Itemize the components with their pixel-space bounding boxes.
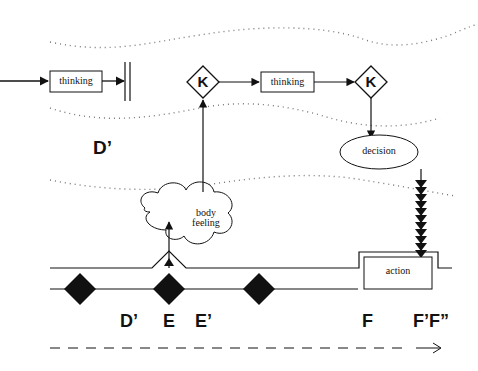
timeline-label-d-prime: D’ (120, 311, 138, 332)
upper-timeline-bump-arrowhead (164, 258, 174, 266)
k-node-1-label: K (193, 73, 213, 90)
decision-label: decision (340, 145, 418, 156)
timeline-label-f: F (362, 311, 373, 332)
region-label-d-prime: D’ (93, 137, 112, 159)
event-diamond-d-prime (64, 273, 96, 305)
action-label: action (364, 265, 432, 276)
event-diamond-e (153, 273, 185, 305)
event-diamond-e-prime (243, 273, 275, 305)
thinking-2-label: thinking (261, 76, 314, 87)
timeline-label-e: E (163, 311, 175, 332)
dotted-band-upper (50, 24, 478, 48)
dotted-band-middle (50, 104, 440, 126)
thinking-1-label: thinking (50, 75, 102, 86)
diagram-canvas (0, 0, 478, 371)
body-feeling-label-2: feeling (186, 218, 226, 228)
k-node-2-label: K (361, 73, 381, 90)
decision-to-action-chain (415, 169, 427, 258)
timeline-label-e-prime: E’ (195, 311, 212, 332)
dotted-band-lower (50, 176, 455, 196)
timeline-label-f-prime-f-double-prime: F’F” (413, 311, 449, 332)
